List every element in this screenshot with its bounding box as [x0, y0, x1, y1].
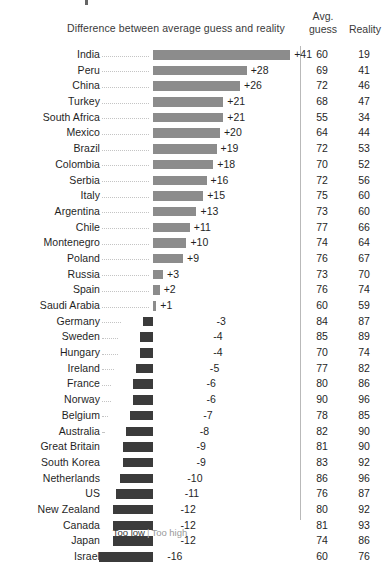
- row-reality-value: 86: [343, 534, 385, 546]
- row-avg-guess-value: 60: [302, 299, 342, 311]
- bar-value-label: -3: [217, 315, 226, 327]
- row-reality-value: 64: [343, 236, 385, 248]
- table-row: Montenegro+107464: [0, 235, 387, 251]
- row-country-label: Colombia: [0, 158, 100, 170]
- bar-value-label: +21: [227, 111, 245, 123]
- row-avg-guess-value: 76: [302, 252, 342, 264]
- leader-line: [102, 197, 149, 199]
- leader-line: [102, 259, 149, 261]
- row-country-label: Russia: [0, 268, 100, 280]
- row-reality-value: 87: [343, 315, 385, 327]
- row-country-label: Chile: [0, 221, 100, 233]
- bar-value-label: -8: [200, 425, 209, 437]
- bar-value-label: -4: [213, 330, 222, 342]
- row-reality-value: 53: [343, 142, 385, 154]
- bar-positive: [153, 270, 163, 280]
- table-row: Norway-69096: [0, 392, 387, 408]
- bar-negative: [143, 317, 153, 327]
- row-reality-value: 67: [343, 252, 385, 264]
- row-reality-value: 19: [343, 48, 385, 60]
- row-reality-value: 41: [343, 64, 385, 76]
- bar-positive: [153, 238, 186, 248]
- row-country-label: Israel: [0, 550, 100, 562]
- chart-header: Difference between average guess and rea…: [0, 0, 387, 46]
- bar-value-label: +28: [251, 64, 269, 76]
- bar-negative: [126, 427, 153, 437]
- bar-positive: [153, 128, 220, 138]
- table-row: South Africa+215534: [0, 110, 387, 126]
- row-reality-value: 60: [343, 189, 385, 201]
- row-country-label: Argentina: [0, 205, 100, 217]
- leader-line: [102, 291, 149, 293]
- table-row: Ireland-57782: [0, 361, 387, 377]
- row-avg-guess-value: 55: [302, 111, 342, 123]
- row-avg-guess-value: 73: [302, 205, 342, 217]
- column-header-avg: Avg.: [306, 11, 340, 23]
- row-reality-value: 90: [343, 440, 385, 452]
- table-row: Hungary-47074: [0, 345, 387, 361]
- table-row: Sweden-48589: [0, 329, 387, 345]
- bar-value-label: +2: [164, 283, 176, 295]
- bar-value-label: +20: [224, 126, 242, 138]
- bar-value-label: +15: [207, 189, 225, 201]
- bar-negative: [123, 442, 153, 452]
- row-avg-guess-value: 90: [302, 393, 342, 405]
- bar-positive: [153, 113, 223, 123]
- table-row: France-68086: [0, 376, 387, 392]
- row-reality-value: 96: [343, 472, 385, 484]
- row-reality-value: 60: [343, 205, 385, 217]
- row-avg-guess-value: 86: [302, 472, 342, 484]
- row-country-label: Netherlands: [0, 472, 100, 484]
- table-row: Netherlands-108696: [0, 471, 387, 487]
- row-country-label: Australia: [0, 425, 100, 437]
- row-reality-value: 74: [343, 283, 385, 295]
- row-country-label: Spain: [0, 283, 100, 295]
- row-avg-guess-value: 76: [302, 487, 342, 499]
- row-country-label: Saudi Arabia: [0, 299, 100, 311]
- row-country-label: US: [0, 487, 100, 499]
- row-country-label: Belgium: [0, 409, 100, 421]
- table-row: US-117687: [0, 486, 387, 502]
- row-country-label: South Korea: [0, 456, 100, 468]
- row-country-label: Germany: [0, 315, 100, 327]
- leader-line: [102, 212, 149, 214]
- bar-negative: [140, 332, 153, 342]
- bar-value-label: -6: [207, 393, 216, 405]
- row-country-label: France: [0, 377, 100, 389]
- row-country-label: Norway: [0, 393, 100, 405]
- row-reality-value: 76: [343, 550, 385, 562]
- table-row: Turkey+216847: [0, 94, 387, 110]
- table-row: Germany-38487: [0, 314, 387, 330]
- leader-line: [102, 275, 149, 277]
- bar-value-label: -6: [207, 377, 216, 389]
- leader-line: [102, 369, 114, 371]
- row-avg-guess-value: 83: [302, 456, 342, 468]
- row-country-label: New Zealand: [0, 503, 100, 515]
- bar-positive: [153, 191, 203, 201]
- row-reality-value: 47: [343, 95, 385, 107]
- row-reality-value: 93: [343, 519, 385, 531]
- table-row: Argentina+137360: [0, 204, 387, 220]
- bar-value-label: +18: [217, 158, 235, 170]
- row-country-label: Sweden: [0, 330, 100, 342]
- bar-value-label: -10: [187, 472, 202, 484]
- row-avg-guess-value: 80: [302, 377, 342, 389]
- leader-line: [102, 71, 149, 73]
- row-reality-value: 46: [343, 79, 385, 91]
- row-avg-guess-value: 82: [302, 425, 342, 437]
- row-reality-value: 86: [343, 377, 385, 389]
- row-avg-guess-value: 77: [302, 221, 342, 233]
- leader-line: [102, 134, 149, 136]
- bar-positive: [153, 50, 290, 60]
- bar-negative: [99, 552, 153, 562]
- row-avg-guess-value: 70: [302, 158, 342, 170]
- row-country-label: Italy: [0, 189, 100, 201]
- leader-line: [102, 228, 149, 230]
- bar-negative: [116, 489, 153, 499]
- table-row: China+267246: [0, 78, 387, 94]
- bar-positive: [153, 207, 196, 217]
- row-avg-guess-value: 81: [302, 519, 342, 531]
- table-row: Saudi Arabia+16059: [0, 298, 387, 314]
- bar-positive: [153, 81, 240, 91]
- row-avg-guess-value: 81: [302, 440, 342, 452]
